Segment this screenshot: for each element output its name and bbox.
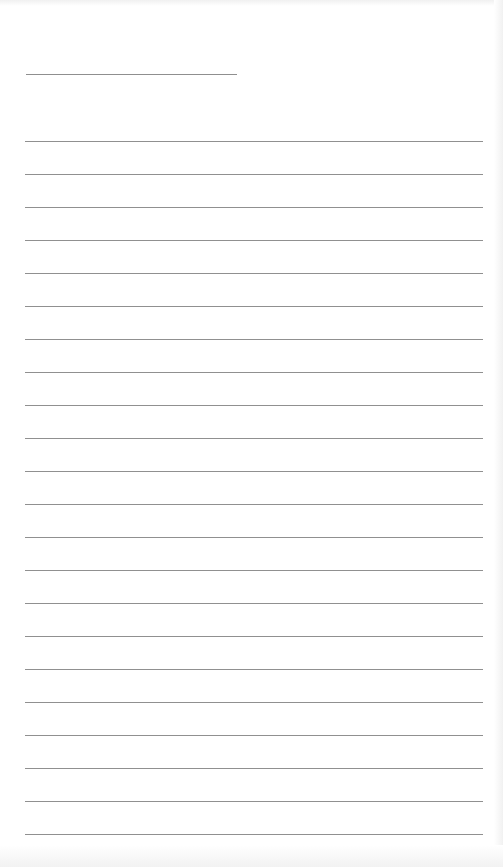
ruled-line: [25, 669, 483, 670]
title-line: [26, 74, 237, 75]
ruled-line: [25, 537, 483, 538]
ruled-line: [25, 636, 483, 637]
ruled-line: [25, 207, 483, 208]
ruled-line: [25, 570, 483, 571]
top-edge-shadow: [0, 0, 503, 6]
ruled-line: [25, 471, 483, 472]
ruled-line: [25, 141, 483, 142]
ruled-line: [25, 273, 483, 274]
bottom-edge-shadow: [0, 845, 503, 867]
ruled-line: [25, 174, 483, 175]
ruled-line: [25, 339, 483, 340]
ruled-line: [25, 240, 483, 241]
ruled-line: [25, 702, 483, 703]
ruled-line: [25, 306, 483, 307]
ruled-line: [25, 438, 483, 439]
ruled-line: [25, 405, 483, 406]
notepad-page: [0, 0, 503, 867]
ruled-line: [25, 735, 483, 736]
ruled-line: [25, 504, 483, 505]
right-edge-shadow: [494, 0, 503, 867]
ruled-line: [25, 768, 483, 769]
ruled-line: [25, 834, 483, 835]
ruled-line: [25, 372, 483, 373]
ruled-line: [25, 603, 483, 604]
ruled-line: [25, 801, 483, 802]
